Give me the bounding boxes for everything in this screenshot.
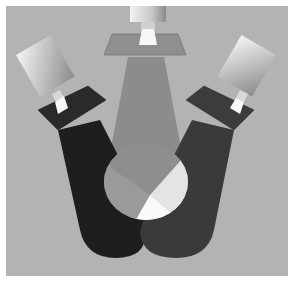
- figure-stage: [0, 0, 292, 281]
- center-lamp-lens: [139, 29, 157, 45]
- center-lamp-neck: [141, 22, 155, 29]
- spotlights-illustration: [0, 0, 292, 281]
